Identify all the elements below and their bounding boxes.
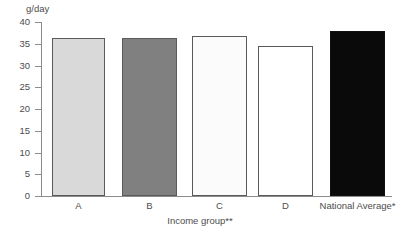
bar-d xyxy=(258,46,313,196)
y-tick-label-20: 20 xyxy=(0,104,30,114)
plot-area xyxy=(41,22,392,196)
y-tick-label-35: 35 xyxy=(0,39,30,49)
bar-b xyxy=(122,38,177,196)
bar-a xyxy=(52,38,105,196)
y-tick-label-10: 10 xyxy=(0,148,30,158)
y-tick-label-0: 0 xyxy=(0,191,30,201)
bar-chart: g/day 4035302520151050 ABCDNational Aver… xyxy=(0,0,400,237)
y-axis-unit-label: g/day xyxy=(26,3,49,14)
bar-c xyxy=(192,36,247,197)
y-tick-label-30: 30 xyxy=(0,61,30,71)
y-tick-label-15: 15 xyxy=(0,126,30,136)
x-axis-title: Income group** xyxy=(0,215,400,226)
y-tick-label-5: 5 xyxy=(0,169,30,179)
y-tick-label-25: 25 xyxy=(0,82,30,92)
x-category-label-5: National Average* xyxy=(308,200,400,211)
y-tick-label-40: 40 xyxy=(0,17,30,27)
bar-national-average xyxy=(330,31,385,196)
y-tick-0 xyxy=(35,196,41,197)
x-axis-line xyxy=(41,196,392,197)
